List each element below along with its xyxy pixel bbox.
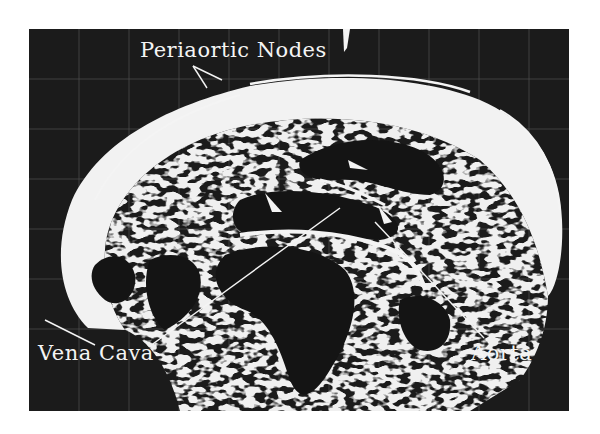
label-vena-cava: Vena Cava: [38, 341, 154, 365]
ultrasound-scan-image: [0, 0, 600, 434]
label-aorta: Aorta: [471, 341, 532, 365]
probe-artifact: [343, 29, 350, 52]
label-periaortic-nodes: Periaortic Nodes: [140, 38, 327, 62]
